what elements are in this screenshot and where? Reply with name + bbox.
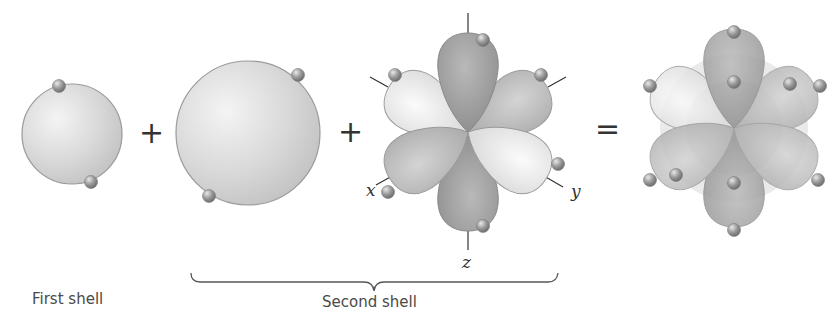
- first-shell-label: First shell: [32, 290, 103, 308]
- orbital-diagram: [0, 0, 838, 334]
- electron-icon: [535, 69, 548, 82]
- electron-icon: [477, 220, 490, 233]
- x-axis-label: x: [366, 180, 376, 200]
- electron-icon: [784, 78, 797, 91]
- electron-icon: [477, 34, 490, 47]
- z-axis-label: z: [462, 252, 471, 272]
- electron-icon: [670, 169, 683, 182]
- electron-icon: [382, 186, 395, 199]
- second-shell-s-sphere: [176, 61, 320, 205]
- second-shell-brace: [191, 273, 558, 291]
- electron-icon: [53, 80, 66, 93]
- electron-icon: [728, 177, 741, 190]
- y-axis-label: y: [571, 181, 581, 201]
- electron-icon: [203, 190, 216, 203]
- electron-icon: [814, 80, 827, 93]
- electron-icon: [644, 174, 657, 187]
- electron-icon: [552, 158, 565, 171]
- electron-icon: [728, 76, 741, 89]
- electron-icon: [728, 224, 741, 237]
- electron-icon: [644, 80, 657, 93]
- first-shell-sphere: [22, 80, 122, 189]
- electron-icon: [85, 176, 98, 189]
- electron-icon: [812, 174, 825, 187]
- electron-icon: [389, 69, 402, 82]
- second-shell-label: Second shell: [322, 293, 417, 311]
- electron-icon: [292, 69, 305, 82]
- combined-orbitals: [640, 26, 828, 237]
- plus-operator: +: [139, 118, 164, 148]
- second-shell-p-orbitals: [370, 13, 566, 250]
- plus-operator: +: [338, 117, 363, 147]
- equals-operator: =: [595, 114, 620, 144]
- electron-icon: [728, 26, 741, 39]
